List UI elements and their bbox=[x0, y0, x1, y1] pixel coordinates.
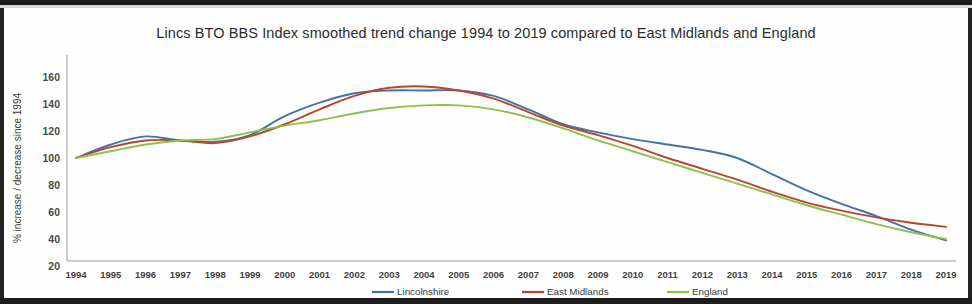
page-edge-right bbox=[968, 8, 972, 298]
y-tick-label: 80 bbox=[48, 179, 60, 191]
chart-title: Lincs BTO BBS Index smoothed trend chang… bbox=[156, 25, 815, 41]
x-tick-label: 2004 bbox=[413, 269, 435, 280]
x-tick-label: 2005 bbox=[448, 269, 470, 280]
x-tick-label: 2009 bbox=[587, 269, 608, 280]
y-tick-label: 20 bbox=[48, 260, 60, 272]
x-tick-label: 1995 bbox=[100, 269, 122, 280]
x-tick-label: 1997 bbox=[170, 269, 191, 280]
legend-label-lincolnshire: Lincolnshire bbox=[397, 286, 450, 297]
x-tick-label: 1996 bbox=[135, 269, 156, 280]
series-line-england bbox=[76, 105, 946, 239]
y-tick-label: 60 bbox=[48, 206, 60, 218]
x-tick-label: 2016 bbox=[831, 269, 852, 280]
y-axis-ticks: 16014012010080604020 bbox=[42, 71, 60, 272]
x-tick-label: 2019 bbox=[935, 269, 956, 280]
x-tick-label: 1994 bbox=[65, 269, 87, 280]
x-tick-label: 2014 bbox=[761, 269, 783, 280]
x-tick-label: 2002 bbox=[344, 269, 365, 280]
x-axis-ticks: 1994199519961997199819992000200120022003… bbox=[65, 269, 956, 280]
y-axis-title: % increase / decrease since 1994 bbox=[12, 93, 23, 244]
legend-label-east-midlands: East Midlands bbox=[547, 286, 609, 297]
x-tick-label: 2003 bbox=[379, 269, 400, 280]
x-tick-label: 2012 bbox=[692, 269, 713, 280]
scanned-page: Lincs BTO BBS Index smoothed trend chang… bbox=[0, 0, 972, 304]
x-tick-label: 2007 bbox=[518, 269, 539, 280]
chart-legend: LincolnshireEast MidlandsEngland bbox=[372, 286, 728, 297]
x-tick-label: 1999 bbox=[239, 269, 260, 280]
y-tick-label: 120 bbox=[42, 125, 60, 137]
y-tick-label: 140 bbox=[42, 98, 60, 110]
x-tick-label: 2010 bbox=[622, 269, 643, 280]
page-edge-bottom bbox=[0, 298, 972, 304]
y-tick-label: 100 bbox=[42, 152, 60, 164]
series-line-east-midlands bbox=[76, 86, 946, 227]
x-tick-label: 2000 bbox=[274, 269, 295, 280]
x-tick-label: 2015 bbox=[796, 269, 818, 280]
x-tick-label: 2001 bbox=[309, 269, 331, 280]
x-tick-label: 2018 bbox=[901, 269, 922, 280]
x-tick-label: 2006 bbox=[483, 269, 504, 280]
y-tick-label: 40 bbox=[48, 233, 60, 245]
x-tick-label: 2008 bbox=[553, 269, 574, 280]
series-group bbox=[76, 86, 946, 240]
x-tick-label: 2017 bbox=[866, 269, 887, 280]
chart-canvas: Lincs BTO BBS Index smoothed trend chang… bbox=[4, 8, 968, 298]
x-tick-label: 2011 bbox=[657, 269, 678, 280]
x-tick-label: 2013 bbox=[727, 269, 748, 280]
x-tick-label: 1998 bbox=[205, 269, 226, 280]
y-tick-label: 160 bbox=[42, 71, 60, 83]
line-chart: Lincs BTO BBS Index smoothed trend chang… bbox=[4, 8, 968, 298]
legend-label-england: England bbox=[692, 286, 728, 297]
